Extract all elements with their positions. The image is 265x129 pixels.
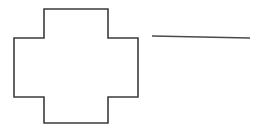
figure-svg xyxy=(0,0,265,129)
canvas-background xyxy=(0,0,265,129)
drawing-canvas xyxy=(0,0,265,129)
